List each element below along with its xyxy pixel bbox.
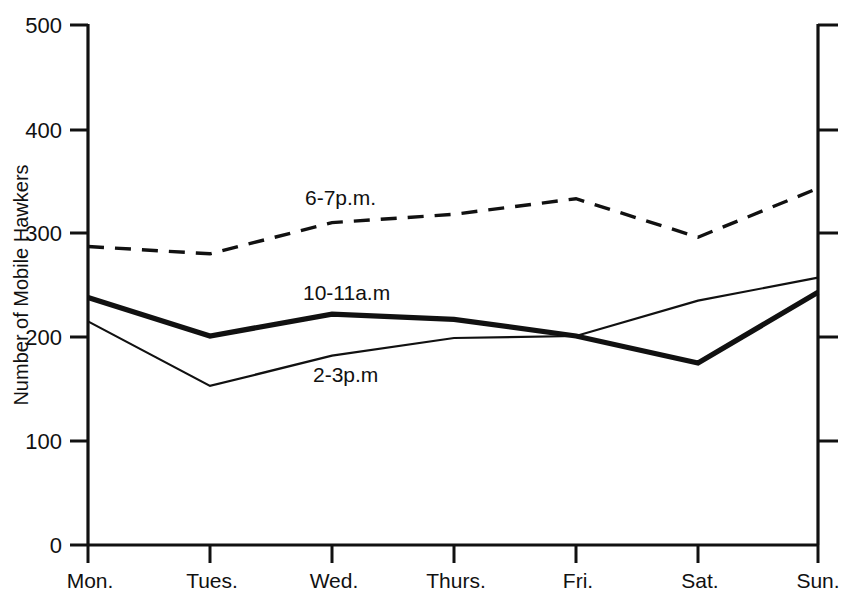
x-tick-label-sun: Sun. xyxy=(796,569,839,592)
chart-container: 500 400 300 200 100 0 Mon. Tues. Wed. Th… xyxy=(0,0,848,595)
x-tick-label-sat: Sat. xyxy=(681,569,718,592)
axis-group xyxy=(70,24,838,563)
x-tick-labels: Mon. Tues. Wed. Thurs. Fri. Sat. Sun. xyxy=(67,569,840,592)
series-group xyxy=(88,188,818,386)
series-label-6-7pm: 6-7p.m. xyxy=(305,186,376,209)
series-line-10-11am xyxy=(88,292,818,363)
y-axis-title: Number of Mobile Hawkers xyxy=(10,164,32,405)
series-labels: 6-7p.m. 10-11a.m 2-3p.m xyxy=(303,186,390,386)
x-tick-label-tues: Tues. xyxy=(186,569,238,592)
y-tick-label-100: 100 xyxy=(25,429,62,454)
x-tick-label-wed: Wed. xyxy=(310,569,359,592)
x-tick-label-mon: Mon. xyxy=(67,569,114,592)
y-tick-label-500: 500 xyxy=(25,13,62,38)
y-tick-label-0: 0 xyxy=(50,533,62,558)
series-label-2-3pm: 2-3p.m xyxy=(313,363,378,386)
x-tick-label-fri: Fri. xyxy=(563,569,593,592)
series-line-6-7pm xyxy=(88,188,818,254)
x-tick-label-thurs: Thurs. xyxy=(426,569,486,592)
line-chart: 500 400 300 200 100 0 Mon. Tues. Wed. Th… xyxy=(0,0,848,595)
series-label-10-11am: 10-11a.m xyxy=(303,281,390,304)
y-tick-label-400: 400 xyxy=(25,118,62,143)
